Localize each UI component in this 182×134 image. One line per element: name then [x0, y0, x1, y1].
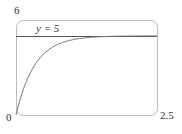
growth-curve [16, 36, 157, 115]
plot-area [0, 0, 182, 134]
plot-frame [17, 21, 158, 116]
